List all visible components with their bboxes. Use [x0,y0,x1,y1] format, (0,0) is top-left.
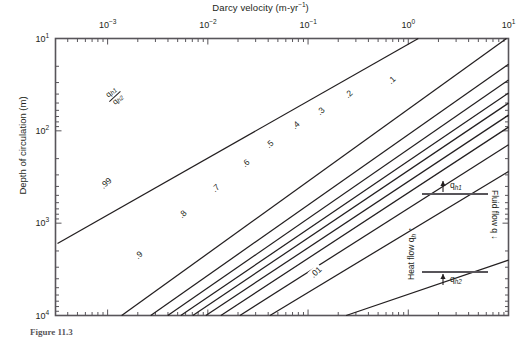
inset-qh1-subscript: h1 [455,184,462,191]
inset-label-qh1: qh1 [450,180,462,191]
figure-caption-prefix: Figure 11.3 [30,327,73,337]
inset-qh2-subscript: h2 [455,278,462,285]
inset-heat-flow-arrow: ↑ [406,227,416,234]
inset-arrow-qh1-head [440,181,445,186]
figure-caption: Figure 11.3 [30,327,510,337]
inset-label-qh2: qh2 [450,274,462,285]
plot-canvas [0,0,521,340]
inset-arrow-qh2-head [440,274,445,279]
inset-label-fluid-flow: Fluid flow q ↓ [490,190,500,240]
inset-label-heat-flow: Heat flow qh ↑ [406,227,417,280]
figure-darcy-velocity-depth: Darcy velocity (m-yr−1) Depth of circula… [0,0,521,340]
inset-heat-flow-subscript: h [410,234,417,238]
inset-schematic: qh1 qh2 Heat flow qh ↑ Fluid flow q ↓ [398,176,513,288]
inset-fluid-flow-arrow: ↓ [490,233,500,240]
inset-fluid-flow-text: Fluid flow q [490,190,500,233]
inset-heat-flow-base: Heat flow q [406,237,416,280]
